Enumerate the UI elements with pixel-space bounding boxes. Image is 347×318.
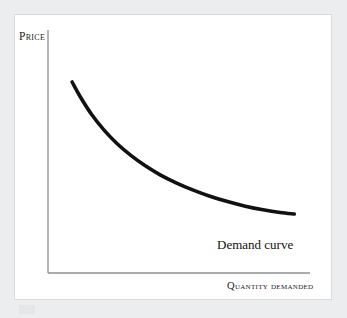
figure-root: Price Quantity demanded Demand curve: [0, 0, 347, 318]
x-axis-label: Quantity demanded: [227, 281, 313, 292]
caption-sliver: [19, 305, 35, 314]
y-axis-label: Price: [19, 31, 45, 43]
demand-curve-annotation: Demand curve: [217, 238, 293, 251]
figure-panel: [14, 14, 332, 300]
